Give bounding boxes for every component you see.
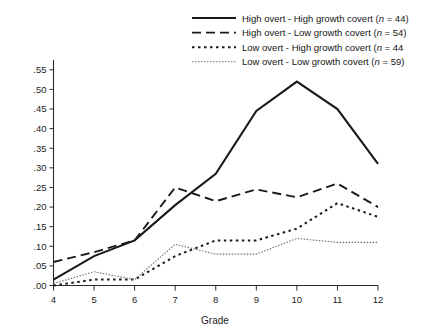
chart-axes: .00.05.10.15.20.25.30.35.40.45.50.55 456… — [33, 60, 383, 305]
x-tick-label: 11 — [333, 294, 343, 305]
y-tick-label: .10 — [33, 241, 46, 252]
x-axis-title: Grade — [201, 315, 229, 326]
series-line-2 — [54, 203, 379, 285]
x-tick-label: 6 — [132, 294, 137, 305]
series-line-1 — [54, 184, 379, 262]
legend-label-2: Low overt - High growth covert (n = 44 — [242, 42, 403, 53]
x-tick-label: 4 — [51, 294, 56, 305]
legend-label-0: High overt - High growth covert (n = 44) — [242, 13, 409, 24]
y-axis-ticks: .00.05.10.15.20.25.30.35.40.45.50.55 — [33, 64, 53, 291]
chart-legend: High overt - High growth covert (n = 44)… — [192, 13, 409, 68]
y-tick-label: .50 — [33, 84, 46, 95]
series-line-3 — [54, 238, 379, 283]
x-axis-ticks: 456789101112 — [51, 286, 383, 305]
y-tick-label: .45 — [33, 103, 46, 114]
x-tick-label: 10 — [292, 294, 303, 305]
x-tick-label: 8 — [213, 294, 218, 305]
y-tick-label: .40 — [33, 123, 46, 134]
x-tick-label: 5 — [91, 294, 96, 305]
y-tick-label: .25 — [33, 182, 46, 193]
x-tick-label: 9 — [254, 294, 259, 305]
chart-series — [54, 82, 379, 286]
line-chart: High overt - High growth covert (n = 44)… — [0, 0, 432, 332]
legend-label-1: High overt - Low growth covert (n = 54) — [242, 27, 407, 38]
y-tick-label: .35 — [33, 143, 46, 154]
y-tick-label: .05 — [33, 260, 46, 271]
y-tick-label: .00 — [33, 280, 46, 291]
figure-container: High overt - High growth covert (n = 44)… — [0, 0, 432, 332]
legend-label-3: Low overt - Low growth covert (n = 59) — [242, 56, 404, 67]
x-tick-label: 7 — [173, 294, 178, 305]
x-tick-label: 12 — [373, 294, 384, 305]
y-tick-label: .15 — [33, 221, 46, 232]
y-tick-label: .55 — [33, 64, 46, 75]
y-tick-label: .20 — [33, 201, 46, 212]
y-tick-label: .30 — [33, 162, 46, 173]
